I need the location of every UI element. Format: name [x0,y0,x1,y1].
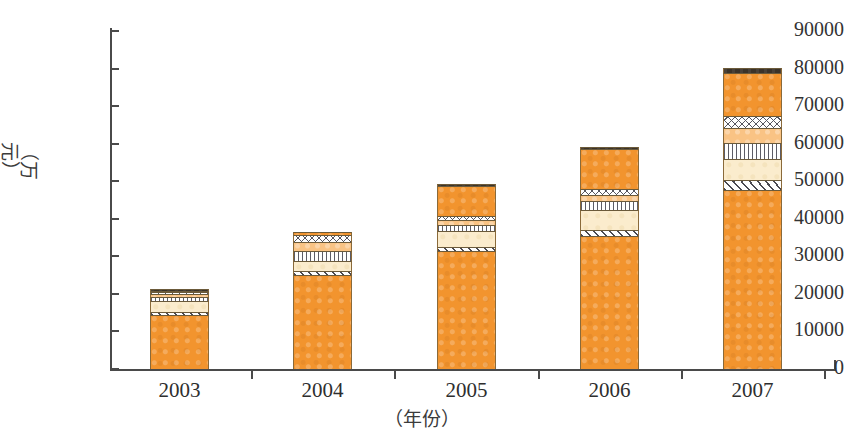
y-tick [110,255,119,257]
bar-2006-segment-5-light-orange [580,195,639,201]
bar-2003 [150,289,209,369]
x-tick [681,369,683,379]
bar-2004-segment-3-cream [293,261,352,271]
y-tick [110,218,119,220]
bar-2005-segment-2-diagonal-hatch [437,247,496,252]
bar-2005-segment-5-light-orange [437,220,496,225]
x-tick-label-2005: 2005 [407,378,527,403]
bar-2003-segment-2-diagonal-hatch [150,312,209,315]
bar-2007-segment-6-scallop [723,116,782,128]
y-tick [110,105,119,107]
bar-2007-segment-8-dark-cap [723,68,782,73]
bar-2004-segment-2-diagonal-hatch [293,271,352,275]
bar-2007-segment-7-orange-top [723,73,782,116]
bar-2005-segment-1-solid-orange [437,251,496,369]
bar-2006 [580,147,639,369]
y-tick-label: 90000 [748,18,844,41]
bar-2004-segment-4-vertical-stripe [293,251,352,261]
y-tick [110,180,119,182]
x-tick-label-2004: 2004 [263,378,383,403]
bar-2006-segment-2-diagonal-hatch [580,230,639,236]
y-axis-line [110,28,112,371]
bar-2003-segment-4-vertical-stripe [150,297,209,302]
x-axis-title: （年份） [0,404,844,428]
bar-2007-segment-4-vertical-stripe [723,143,782,159]
y-tick [110,68,119,70]
bar-2004 [293,232,352,369]
y-axis-title: （万元） [2,140,36,178]
bar-2006-segment-3-cream [580,210,639,230]
bar-2005 [437,184,496,369]
bar-2003-segment-8-dark-cap [150,289,209,290]
bar-2007-segment-1-solid-orange [723,190,782,369]
bar-2006-segment-6-scallop [580,189,639,196]
y-axis-title-text: （万元） [0,142,38,176]
bar-2003-segment-3-cream [150,301,209,312]
bar-2003-segment-5-light-orange [150,294,209,296]
y-tick [110,368,119,370]
bar-2003-segment-7-orange-top [150,291,209,293]
bar-2007-segment-3-cream [723,159,782,181]
x-tick-label-2007: 2007 [693,378,813,403]
bar-2006-segment-8-dark-cap [580,147,639,150]
bar-2007-segment-5-light-orange [723,128,782,143]
bar-2007 [723,68,782,369]
bar-2004-segment-5-light-orange [293,242,352,251]
stacked-bar-chart: （万元） 01000020000300004000050000600007000… [0,0,844,428]
x-axis-line [110,369,836,371]
bar-2006-segment-4-vertical-stripe [580,201,639,210]
bar-2005-segment-8-dark-cap [437,184,496,186]
x-tick [538,369,540,379]
y-tick [110,30,119,32]
bar-2005-segment-7-orange-top [437,186,496,215]
bar-2004-segment-6-scallop [293,235,352,242]
bar-2006-segment-7-orange-top [580,149,639,188]
y-tick [110,330,119,332]
x-tick-label-2006: 2006 [550,378,670,403]
x-tick-label-2003: 2003 [120,378,240,403]
y-tick [110,143,119,145]
bar-2003-segment-1-solid-orange [150,315,209,369]
bar-2006-segment-1-solid-orange [580,236,639,369]
bar-2004-segment-7-orange-top [293,232,352,235]
bar-2007-segment-2-diagonal-hatch [723,180,782,189]
bar-2005-segment-4-vertical-stripe [437,225,496,231]
x-tick [251,369,253,379]
bar-2003-segment-6-scallop [150,292,209,294]
x-tick [824,369,826,379]
bar-2005-segment-6-scallop [437,216,496,220]
y-tick [110,293,119,295]
bar-2005-segment-3-cream [437,231,496,247]
bar-2004-segment-1-solid-orange [293,275,352,369]
bar-2004-segment-8-dark-cap [293,232,352,233]
x-tick [394,369,396,379]
